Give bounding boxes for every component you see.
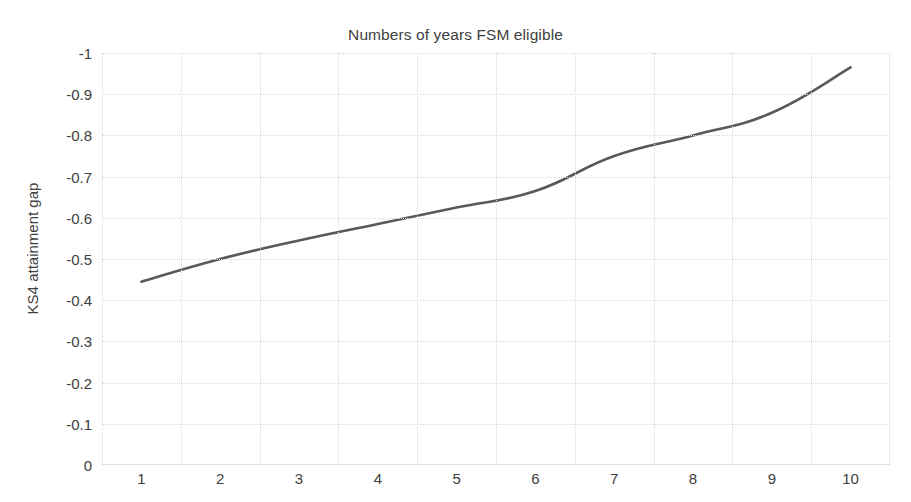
chart-container: Numbers of years FSM eligible KS4 attain… xyxy=(0,0,911,502)
y-axis-tick-label: -1 xyxy=(40,45,92,62)
gridline-vertical xyxy=(417,53,418,465)
y-axis-tick-label: -0.9 xyxy=(40,86,92,103)
x-axis-tick-label: 5 xyxy=(427,470,487,487)
gridline-vertical xyxy=(732,53,733,465)
y-axis-tick-label: 0 xyxy=(40,457,92,474)
x-axis-tick-label: 10 xyxy=(821,470,881,487)
chart-title: Numbers of years FSM eligible xyxy=(0,26,911,44)
gridline-vertical xyxy=(496,53,497,465)
gridline-vertical xyxy=(260,53,261,465)
x-axis-tick-label: 2 xyxy=(190,470,250,487)
gridline-vertical xyxy=(102,53,103,465)
x-axis-tick-label: 8 xyxy=(663,470,723,487)
y-axis-tick-label: -0.6 xyxy=(40,209,92,226)
x-axis-tick-label: 7 xyxy=(584,470,644,487)
y-axis-tick-labels: -1-0.9-0.8-0.7-0.6-0.5-0.4-0.3-0.2-0.10 xyxy=(40,53,92,465)
y-axis-tick-label: -0.7 xyxy=(40,168,92,185)
gridline-vertical xyxy=(811,53,812,465)
gridline-vertical xyxy=(654,53,655,465)
gridline-vertical xyxy=(338,53,339,465)
x-axis-tick-labels: 12345678910 xyxy=(102,470,890,494)
x-axis-tick-label: 6 xyxy=(505,470,565,487)
y-axis-tick-label: -0.4 xyxy=(40,292,92,309)
y-axis-tick-label: -0.2 xyxy=(40,374,92,391)
gridline-vertical xyxy=(181,53,182,465)
y-axis-tick-label: -0.3 xyxy=(40,333,92,350)
y-axis-title: KS4 attainment gap xyxy=(24,149,41,349)
plot-area xyxy=(102,53,890,465)
x-axis-tick-label: 1 xyxy=(111,470,171,487)
gridline-horizontal xyxy=(102,465,890,466)
y-axis-tick-label: -0.1 xyxy=(40,415,92,432)
x-axis-tick-label: 9 xyxy=(742,470,802,487)
x-axis-tick-label: 4 xyxy=(348,470,408,487)
y-axis-tick-label: -0.5 xyxy=(40,251,92,268)
gridline-vertical xyxy=(889,53,890,465)
x-axis-tick-label: 3 xyxy=(269,470,329,487)
gridline-vertical xyxy=(575,53,576,465)
y-axis-tick-label: -0.8 xyxy=(40,127,92,144)
